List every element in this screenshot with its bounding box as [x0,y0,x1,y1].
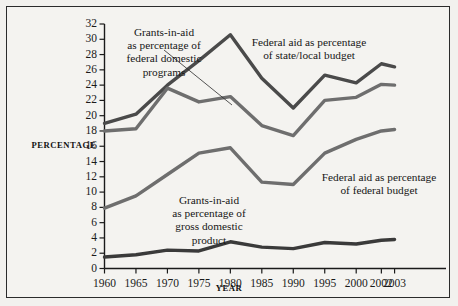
annotation-line-2: as percentage of [152,207,266,220]
annotation-line-2: of state/local budget [243,49,375,62]
y-tick-label-4: 4 [75,232,97,244]
annotation-line-1: Grants-in-aid [152,194,266,207]
annotation-federal-domestic-programs: Grants-in-aid as percentage of federal d… [108,26,220,79]
y-tick-label-0: 0 [75,263,97,275]
annotation-line-3: gross domestic [152,220,266,233]
y-tick-label-26: 26 [75,64,97,76]
annotation-line-1: Federal aid as percentage [311,171,447,184]
annotation-line-2: of federal budget [311,184,447,197]
annotation-line-2: as percentage of [108,39,220,52]
y-tick-label-2: 2 [75,247,97,259]
x-axis-title: YEAR [0,283,458,293]
annotation-federal-budget: Federal aid as percentage of federal bud… [311,171,447,197]
y-axis-ticks [100,24,105,269]
annotation-line-4: product [152,234,266,247]
chart-figure: 02468101214161820222426283032 1960196519… [0,0,458,306]
y-axis-title: PERCENTAGE [8,140,96,150]
annotation-line-1: Grants-in-aid [108,26,220,39]
x-axis-ticks [105,269,395,274]
series-line-1 [105,84,395,135]
y-tick-label-30: 30 [75,33,97,45]
annotation-state-local-budget: Federal aid as percentage of state/local… [243,36,375,62]
y-tick-label-32: 32 [75,18,97,30]
y-tick-label-6: 6 [75,217,97,229]
annotation-line-4: programs [108,66,220,79]
y-tick-label-24: 24 [75,79,97,91]
y-tick-label-18: 18 [75,125,97,137]
annotation-line-1: Federal aid as percentage [243,36,375,49]
annotation-gross-domestic-product: Grants-in-aid as percentage of gross dom… [152,194,266,247]
y-tick-label-14: 14 [75,156,97,168]
y-tick-label-28: 28 [75,49,97,61]
y-tick-label-22: 22 [75,94,97,106]
y-tick-label-20: 20 [75,110,97,122]
y-tick-label-12: 12 [75,171,97,183]
y-tick-label-8: 8 [75,201,97,213]
y-tick-label-10: 10 [75,186,97,198]
annotation-line-3: federal domestic [108,52,220,65]
chart-plot-area [0,0,458,306]
